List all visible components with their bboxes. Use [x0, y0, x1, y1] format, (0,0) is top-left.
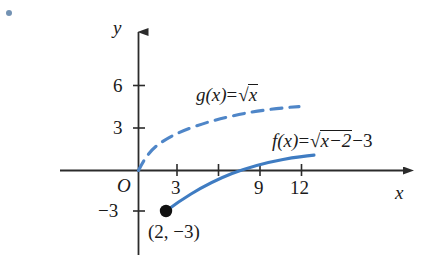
x-tick-label-9: 9 — [254, 178, 264, 197]
function-name-f: f(x) — [272, 130, 298, 151]
radical-f: √x−2 — [309, 130, 352, 150]
equals-sign-g: = — [227, 84, 238, 105]
x-tick-label-12: 12 — [290, 178, 309, 197]
equals-sign-f: = — [298, 130, 309, 151]
y-tick-label-3: 3 — [113, 118, 123, 137]
x-axis-label: x — [395, 183, 403, 202]
radicand-f: x−2 — [320, 130, 353, 150]
function-label-g: g(x)=√x — [196, 84, 258, 104]
point-marker-2-neg3 — [160, 205, 172, 217]
function-label-f: f(x)=√x−2−3 — [272, 130, 373, 150]
math-graph-figure: y x O 6 3 −3 3 9 12 g(x)=√x f(x)=√x−2−3 … — [0, 0, 428, 265]
radical-g: √x — [237, 84, 258, 104]
y-axis-label: y — [113, 18, 121, 37]
function-name-g: g(x) — [196, 84, 227, 105]
origin-label: O — [117, 176, 131, 195]
y-tick-label-6: 6 — [113, 76, 123, 95]
y-tick-label-neg3: −3 — [98, 201, 118, 220]
f-tail-term: −3 — [352, 130, 372, 151]
x-tick-label-3: 3 — [171, 178, 181, 197]
point-label-2-neg3: (2, −3) — [148, 222, 200, 241]
radicand-g: x — [248, 84, 258, 104]
